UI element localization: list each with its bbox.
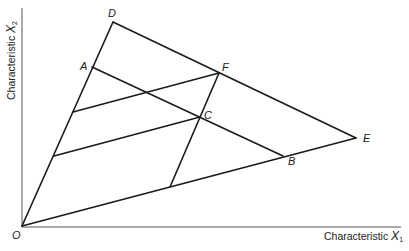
label-O: O [12,229,21,241]
frontier-DE [113,22,356,138]
label-C: C [204,109,212,121]
label-B: B [288,155,295,167]
line-F-through-C [170,73,219,187]
line-AB [92,67,283,156]
x-axis-label: Characteristic X1 [324,229,403,243]
ray-OD [22,22,113,226]
line-upper-to-F [73,73,219,112]
y-axis-label: Characteristic X2 [4,21,18,100]
budget-line-diagram: D A F C E B O Characteristic X1 Characte… [0,0,409,251]
label-F: F [222,61,230,73]
line-lower-to-C [54,117,200,156]
label-D: D [108,7,116,19]
label-A: A [79,60,87,72]
label-E: E [363,132,371,144]
